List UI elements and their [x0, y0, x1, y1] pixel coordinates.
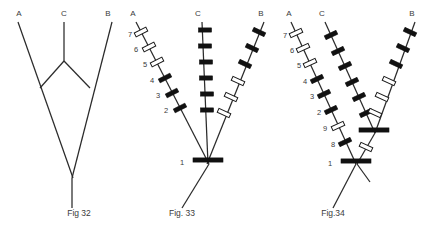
fig34-band-label-3: 3: [310, 92, 314, 101]
fig34-band-18: [375, 92, 389, 101]
fig33-band-3-black: [158, 73, 171, 83]
fig34-band-2-white: [303, 58, 317, 67]
fig34-arm-c: [325, 22, 375, 133]
fig34-arm-label-C: C: [319, 9, 325, 18]
fig33-stem: [182, 164, 209, 208]
fig34-band-22: [341, 159, 371, 163]
fig34-band-6: [331, 121, 345, 130]
fig34-band-21-white: [359, 142, 373, 151]
fig33-band-label-6: 6: [134, 45, 138, 54]
fig34-band-label-4: 4: [303, 77, 307, 86]
fig34-band-8-black: [324, 30, 338, 39]
fig34-band-4: [317, 89, 331, 98]
fig34-band-18-white: [375, 92, 389, 101]
fig33-band-9: [200, 76, 213, 80]
fig34-band-12-black: [352, 92, 366, 101]
fig34-band-label-1: 1: [328, 159, 332, 168]
fig33-band-label-2: 2: [164, 106, 168, 115]
fig33-band-2-white: [150, 57, 163, 67]
fig33-band-6-black: [199, 28, 212, 32]
fig34-band-0: [289, 28, 303, 37]
fig33-band-label-3: 3: [156, 91, 160, 100]
fig34-band-9: [331, 46, 345, 55]
fig33-band-15: [231, 76, 245, 85]
figure-fig33: 7654321ACBFig. 33: [128, 9, 266, 218]
fig33-band-7-black: [199, 44, 212, 48]
fig33-band-label-5: 5: [143, 60, 147, 69]
fig34-band-3-black: [310, 74, 324, 83]
fig34-band-2: [303, 58, 317, 67]
fig33-band-11-black: [201, 108, 214, 112]
fig34-arm-label-A: A: [286, 9, 292, 18]
fig33-band-18: [193, 158, 223, 162]
fig34-band-6-white: [331, 121, 345, 130]
fig34-band-3: [310, 74, 324, 83]
fig34-band-22-black: [341, 159, 371, 163]
fig34-band-19: [368, 108, 382, 117]
fig34-stem2: [357, 164, 370, 182]
fig34-band-11: [345, 77, 359, 86]
fig34-band-5-black: [324, 105, 338, 114]
fig34-stem: [333, 164, 356, 208]
fig33-band-11: [201, 108, 214, 112]
fig34-band-1: [296, 43, 310, 52]
fig33-band-8-black: [200, 60, 213, 64]
fig32-arm-label-A: A: [16, 9, 22, 18]
fig33-band-label-7: 7: [128, 30, 132, 39]
fig32-caption: Fig 32: [67, 208, 91, 218]
diagram-canvas: ACBFig 327654321ACBFig. 33765432981ACBFi…: [0, 0, 435, 234]
fig33-band-4: [165, 88, 178, 98]
fig34-band-12: [352, 92, 366, 101]
fig34-band-21: [359, 142, 373, 151]
fig34-band-19-white: [368, 108, 382, 117]
fig34-band-label-9: 9: [323, 124, 327, 133]
fig34-band-15: [396, 43, 410, 52]
fig32-arm-b: [72, 22, 112, 178]
fig34-band-label-5: 5: [297, 61, 301, 70]
fig33-arm-label-A: A: [130, 9, 136, 18]
fig33-band-label-4: 4: [150, 76, 154, 85]
figure-fig32: ACBFig 32: [16, 9, 112, 218]
fig34-band-label-2: 2: [317, 108, 321, 117]
fig33-caption: Fig. 33: [169, 208, 195, 218]
fig33-band-14: [238, 59, 252, 68]
fig34-band-1-white: [296, 43, 310, 52]
fig33-band-0: [134, 27, 147, 37]
fig33-band-6: [199, 28, 212, 32]
fig34-arm-label-B: B: [409, 9, 414, 18]
fig34-band-15-black: [396, 43, 410, 52]
fig34-band-5: [324, 105, 338, 114]
fig34-band-17: [382, 76, 396, 85]
fig32-arm-label-B: B: [105, 9, 110, 18]
fig33-band-10: [201, 92, 214, 96]
fig32-arm-label-C: C: [61, 9, 67, 18]
fig34-band-label-7: 7: [283, 31, 287, 40]
fig34-caption: Fig.34: [321, 208, 345, 218]
figure-plate: ACBFig 327654321ACBFig. 33765432981ACBFi…: [0, 0, 435, 234]
fig33-band-0-white: [134, 27, 147, 37]
fig33-band-5: [173, 103, 186, 113]
fig33-band-label-1: 1: [180, 158, 184, 167]
fig33-band-5-black: [173, 103, 186, 113]
fig34-band-label-6: 6: [290, 46, 294, 55]
fig34-band-20: [359, 128, 389, 132]
fig33-arm-label-B: B: [258, 9, 263, 18]
fig33-arm-label-C: C: [195, 9, 201, 18]
fig33-band-9-black: [200, 76, 213, 80]
fig34-band-20-black: [359, 128, 389, 132]
fig32-link-c-a: [40, 61, 64, 88]
figure-fig34: 765432981ACBFig.34: [283, 9, 417, 218]
fig34-band-8: [324, 30, 338, 39]
fig34-band-10: [338, 61, 352, 70]
fig34-band-11-black: [345, 77, 359, 86]
fig34-band-0-white: [289, 28, 303, 37]
fig33-arm-b: [207, 22, 264, 164]
fig33-band-7: [199, 44, 212, 48]
fig33-band-3: [158, 73, 171, 83]
fig33-band-2: [150, 57, 163, 67]
fig34-band-9-black: [331, 46, 345, 55]
fig33-band-18-black: [193, 158, 223, 162]
fig32-arm-a: [18, 22, 73, 178]
fig33-band-4-black: [165, 88, 178, 98]
fig33-band-1-white: [142, 42, 155, 52]
